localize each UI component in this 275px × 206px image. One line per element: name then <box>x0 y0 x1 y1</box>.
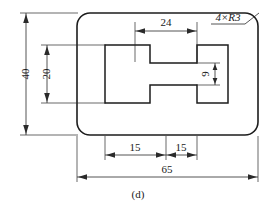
arrow-9-bottom <box>213 78 218 84</box>
note-label-radius: 4×R3 <box>215 11 241 23</box>
arrow-20-bottom <box>44 93 50 102</box>
arrow-24-left <box>136 28 145 34</box>
arrow-24-right <box>187 28 196 34</box>
arrow-15-right-end <box>187 152 196 158</box>
dim-label-9: 9 <box>199 71 211 77</box>
dim-label-20: 20 <box>40 68 52 80</box>
drawing-sheet: 40 20 24 9 15 15 <box>0 0 275 206</box>
dim-label-65: 65 <box>162 163 174 175</box>
arrow-9-top <box>213 64 218 70</box>
arrow-15-left-end <box>156 152 165 158</box>
dim-label-24: 24 <box>161 16 173 28</box>
arrow-65-right <box>248 174 257 180</box>
arrow-15-left-start <box>106 152 115 158</box>
dim-label-15-right: 15 <box>176 141 188 153</box>
arrow-65-left <box>78 174 87 180</box>
dim-label-15-left: 15 <box>130 141 142 153</box>
arrow-40-top <box>23 14 29 23</box>
dim-label-40: 40 <box>19 68 31 80</box>
arrow-20-top <box>44 46 50 55</box>
figure-caption: (d) <box>132 188 145 201</box>
arrow-15-right-start <box>167 152 176 158</box>
technical-drawing-canvas: 40 20 24 9 15 15 <box>0 0 275 206</box>
arrow-40-bottom <box>23 125 29 134</box>
